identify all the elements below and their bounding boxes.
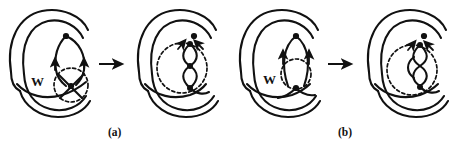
dashed-region-circle	[157, 43, 207, 93]
crossing-node-w	[68, 83, 74, 89]
outer-lobe-lower-curve	[139, 72, 148, 91]
crossing-node-top	[191, 33, 197, 39]
panel-b-right-diagram	[368, 10, 448, 117]
outer-lobe-lower-curve	[241, 72, 250, 91]
panel-label-a: (a)	[108, 126, 122, 139]
w-label-b: W	[263, 72, 276, 87]
panel-b-left-diagram: W	[240, 10, 320, 117]
panel-a-left-diagram: W	[10, 10, 90, 117]
inner-lobe-curve	[23, 20, 83, 74]
left-strand-inner	[55, 36, 66, 86]
outer-lobe-curve	[10, 10, 88, 72]
outer-lobe-curve	[368, 10, 446, 72]
outer-lobe-lower-curve	[369, 72, 378, 91]
panel-label-b: (b)	[338, 126, 352, 139]
figure-canvas: W	[0, 0, 459, 149]
orientation-arrow-right	[427, 44, 433, 50]
crossing-node-mid-twist	[187, 63, 193, 69]
panel-a: W	[10, 10, 218, 139]
w-label-a: W	[31, 74, 44, 89]
panel-a-right-diagram	[138, 10, 218, 117]
dashed-region-circle	[387, 45, 437, 95]
outer-lobe-lower-curve	[11, 72, 20, 91]
crossing-node-top	[421, 33, 427, 39]
figure-root: W	[0, 0, 459, 149]
panel-b: W	[240, 10, 448, 139]
outer-lobe-curve	[138, 10, 216, 72]
